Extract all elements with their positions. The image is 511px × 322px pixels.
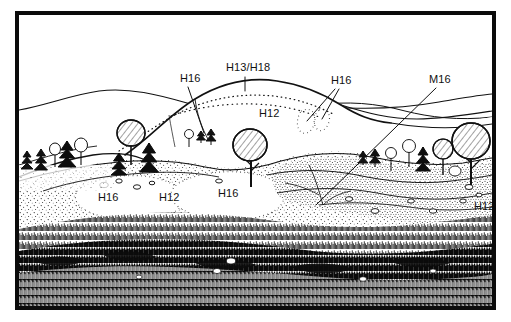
figure-frame: H16 H13/H18 H12 H16 M16 H16 H12 H16 H12	[15, 11, 496, 310]
illustration-plate: H16 H13/H18 H12 H16 M16 H16 H12 H16 H12	[0, 0, 511, 322]
label-h16-lower-left: H16	[98, 192, 118, 203]
label-h13-h18-summit: H13/H18	[226, 62, 270, 73]
label-m16-right: M16	[429, 74, 451, 85]
label-h16-upper-left: H16	[180, 73, 200, 84]
label-h12-lower-left: H12	[159, 192, 179, 203]
label-h16-upper-right: H16	[331, 75, 351, 86]
label-h16-lower-mid: H16	[218, 188, 238, 199]
label-h12-lower-right: H12	[474, 201, 494, 212]
landscape-profile-drawing	[19, 15, 492, 306]
label-h12-upper: H12	[259, 108, 279, 119]
